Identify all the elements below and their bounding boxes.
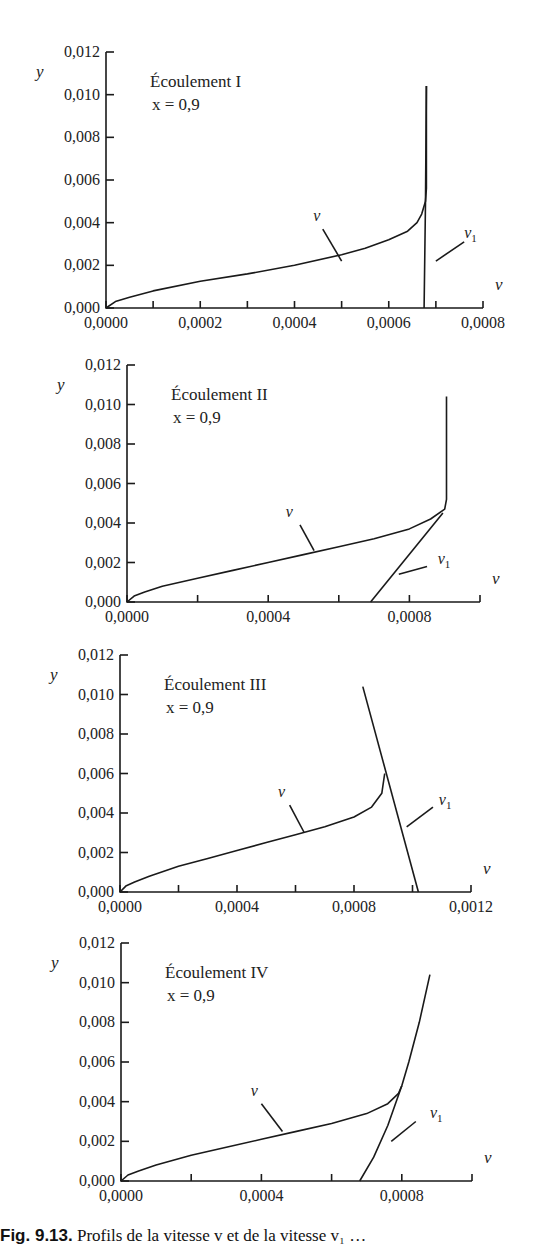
y-tick-label: 0,012 [64, 43, 100, 60]
y-tick-label: 0,004 [78, 804, 114, 821]
x-tick-label: 0,0008 [380, 1187, 424, 1204]
y-tick-label: 0,012 [78, 646, 114, 663]
x-tick-label: 0,0008 [461, 314, 505, 331]
caption-text: Profils de la vitesse v et de la vitesse… [73, 1226, 366, 1245]
annotation-label: v [278, 783, 286, 800]
annotation-leader [436, 242, 464, 261]
annotation-label: v1 [430, 1104, 443, 1124]
x-tick-label: 0,0006 [367, 314, 411, 331]
y-tick-label: 0,008 [79, 1013, 115, 1030]
y-tick-label: 0,010 [64, 86, 100, 103]
y-tick-label: 0,004 [79, 1093, 115, 1110]
y-tick-label: 0,004 [64, 214, 100, 231]
annotation-leader [290, 805, 305, 833]
annotation-leader [261, 1104, 282, 1132]
annotation-leader [391, 1122, 416, 1142]
series-v-line [120, 774, 385, 893]
annotation-leader [407, 807, 433, 827]
x-tick-label: 0,0000 [105, 608, 149, 625]
annotation-label: v [251, 1082, 259, 1099]
annotation-label: v1 [438, 550, 451, 570]
y-tick-label: 0,006 [64, 171, 100, 188]
y-tick-label: 0,010 [79, 974, 115, 991]
panel-title: Écoulement I [150, 72, 241, 91]
y-tick-label: 0,006 [85, 475, 121, 492]
series-v1-line [371, 513, 443, 602]
series-v-line [106, 86, 426, 308]
y-tick-label: 0,002 [64, 256, 100, 273]
y-tick-label: 0,010 [78, 686, 114, 703]
annotation-label: v1 [439, 791, 452, 811]
x-tick-label: 0,0004 [215, 898, 259, 915]
x-tick-label: 0,0000 [84, 314, 128, 331]
figure-caption: Fig. 9.13. Profils de la vitesse v et de… [0, 1226, 537, 1246]
panel-title: Écoulement IV [165, 963, 269, 982]
y-tick-label: 0,008 [85, 435, 121, 452]
x-tick-label: 0,0000 [99, 1187, 143, 1204]
annotation-label: v1 [464, 224, 477, 244]
x-tick-label: 0,0004 [239, 1187, 283, 1204]
annotation-label: v [313, 207, 321, 224]
y-tick-label: 0,012 [85, 356, 121, 373]
x-tick-label: 0,0004 [246, 608, 290, 625]
y-axis-label: y [48, 665, 58, 684]
y-tick-label: 0,010 [85, 396, 121, 413]
x-axis-label: v [483, 859, 491, 878]
x-tick-label: 0,0008 [332, 898, 376, 915]
x-tick-label: 0,0000 [98, 898, 142, 915]
annotation-leader [300, 525, 314, 551]
x-tick-label: 0,0002 [178, 314, 222, 331]
panel-subtitle: x = 0,9 [173, 408, 221, 427]
panel-title: Écoulement II [171, 385, 268, 404]
y-tick-label: 0,002 [79, 1132, 115, 1149]
y-tick-label: 0,012 [79, 934, 115, 951]
x-axis-label: v [495, 275, 503, 294]
y-tick-label: 0,006 [78, 765, 114, 782]
y-tick-label: 0,002 [85, 554, 121, 571]
x-tick-label: 0,0012 [449, 898, 493, 915]
y-axis-label: y [55, 375, 65, 394]
caption-prefix: Fig. 9.13. [0, 1226, 73, 1245]
x-axis-label: v [492, 569, 500, 588]
y-tick-label: 0,008 [78, 725, 114, 742]
series-v-line [127, 397, 447, 602]
x-axis-label: v [484, 1148, 492, 1167]
series-v1-line [424, 86, 426, 308]
panel-ecoulement-3: 0,0000,0020,0040,0060,0080,0100,0120,000… [48, 646, 493, 915]
panel-ecoulement-1: 0,0000,0020,0040,0060,0080,0100,0120,000… [34, 43, 505, 331]
series-v1-line [360, 1086, 402, 1181]
panel-ecoulement-2: 0,0000,0020,0040,0060,0080,0100,0120,000… [55, 356, 500, 625]
annotation-leader [399, 566, 427, 574]
panel-title: Écoulement III [164, 675, 267, 694]
y-axis-label: y [34, 62, 44, 81]
y-tick-label: 0,004 [85, 514, 121, 531]
y-axis-label: y [49, 953, 59, 972]
y-tick-label: 0,002 [78, 844, 114, 861]
series-v-line [121, 975, 430, 1181]
panel-ecoulement-4: 0,0000,0020,0040,0060,0080,0100,0120,000… [49, 934, 492, 1204]
y-tick-label: 0,006 [79, 1053, 115, 1070]
panel-subtitle: x = 0,9 [167, 986, 215, 1005]
panel-subtitle: x = 0,9 [152, 95, 200, 114]
annotation-label: v [286, 503, 294, 520]
y-tick-label: 0,008 [64, 128, 100, 145]
panel-subtitle: x = 0,9 [166, 698, 214, 717]
x-tick-label: 0,0008 [387, 608, 431, 625]
x-tick-label: 0,0004 [273, 314, 317, 331]
series-v1-line [363, 687, 419, 892]
